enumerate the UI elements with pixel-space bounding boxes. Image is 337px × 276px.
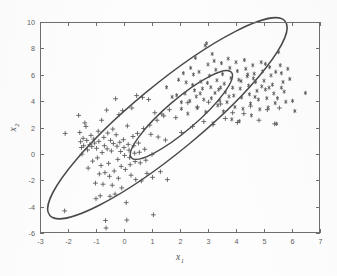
y-tick-label: -6 [29,229,35,238]
x-tick-label: 6 [291,237,295,246]
x-axis-label-subscript: 1 [181,257,184,264]
x-tick-label: 5 [263,237,267,246]
x-tick-label: 3 [207,237,211,246]
y-tick-label: 4 [31,97,35,106]
x-tick-label: -2 [65,237,71,246]
x-tick-label: 4 [235,237,239,246]
figure-container: -3-2-101234567-6-4-20246810 x1x2 [0,0,337,276]
y-tick-label: 8 [31,44,35,53]
y-tick-label: 10 [27,18,35,27]
y-tick-label: 0 [31,150,35,159]
y-tick-label: -2 [29,176,35,185]
y-tick-label: -4 [29,203,35,212]
x-tick-label: 1 [151,237,155,246]
x-tick-label: -1 [93,237,99,246]
plot-background [0,0,337,276]
x-tick-label: 7 [319,237,323,246]
x-tick-label: 2 [179,237,183,246]
scatter-plot: -3-2-101234567-6-4-20246810 x1x2 [0,0,337,276]
y-tick-label: 6 [31,71,35,80]
y-tick-label: 2 [31,124,35,133]
x-tick-label: -3 [37,237,43,246]
x-tick-label: 0 [123,237,127,246]
